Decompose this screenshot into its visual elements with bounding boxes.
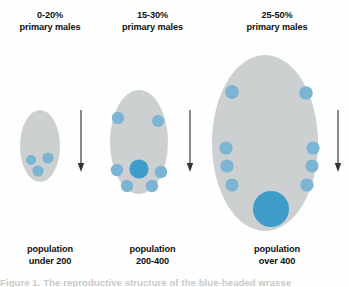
male-dot-medium-6: [146, 180, 158, 192]
population-group-large: [212, 55, 320, 231]
male-dot-medium-5: [121, 180, 133, 192]
figure-footnote-clipped: Figure 1. The reproductive structure of …: [0, 277, 349, 287]
primary-male-dot-large-8: [253, 191, 289, 227]
male-dot-medium-0: [112, 112, 124, 124]
male-dot-large-5: [306, 141, 319, 154]
population-diagram-graphics: [0, 0, 349, 287]
down-arrow-icon-large: [335, 110, 341, 172]
arrow-head: [187, 163, 193, 172]
male-dot-large-4: [225, 178, 238, 191]
male-dot-medium-1: [152, 115, 164, 127]
male-dot-small-1: [42, 152, 53, 163]
male-dot-large-1: [299, 86, 313, 100]
male-dot-small-2: [32, 165, 43, 176]
figure-canvas: 0-20% primary males population under 200…: [0, 0, 349, 287]
male-dot-medium-3: [111, 164, 123, 176]
arrow-head: [335, 163, 341, 172]
male-dot-small-0: [26, 155, 36, 165]
arrow-head: [78, 163, 84, 172]
down-arrow-icon-small: [78, 110, 84, 172]
down-arrow-icon-medium: [187, 110, 193, 172]
male-dot-medium-4: [155, 166, 167, 178]
male-dot-large-3: [220, 159, 233, 172]
population-group-small: [20, 110, 60, 182]
male-dot-large-6: [305, 159, 318, 172]
population-group-medium: [110, 90, 168, 194]
male-dot-large-2: [219, 141, 232, 154]
primary-male-dot-medium-2: [129, 159, 148, 178]
male-dot-large-7: [300, 178, 313, 191]
male-dot-large-0: [225, 85, 239, 99]
